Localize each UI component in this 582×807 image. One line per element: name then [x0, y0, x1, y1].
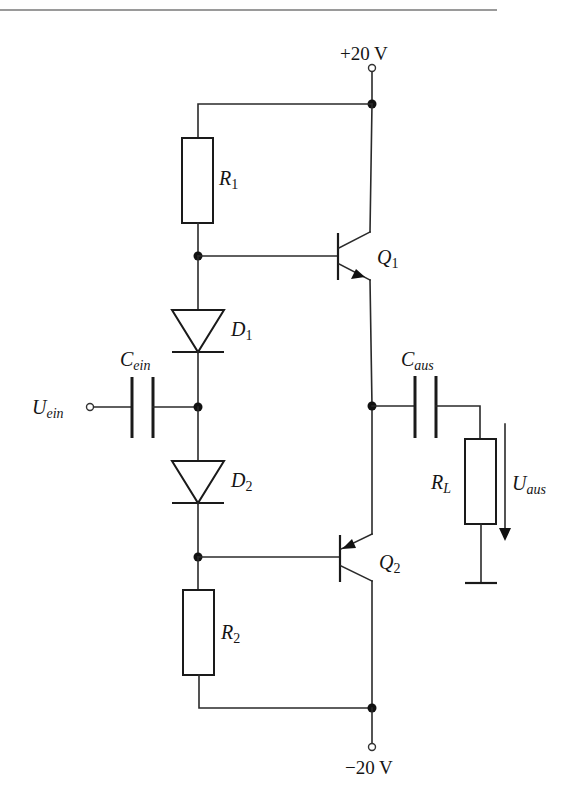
positive-supply-label: +20 V — [340, 43, 388, 64]
resistor-r1-body — [182, 138, 213, 223]
resistor-r2-label: R2 — [220, 621, 240, 646]
diode-d1-triangle — [172, 310, 224, 352]
negative-supply-terminal[interactable] — [369, 744, 376, 751]
diode-d2: D2 — [172, 461, 252, 503]
positive-supply-terminal[interactable] — [369, 65, 376, 72]
q1-collector — [339, 232, 370, 248]
transistor-q2: Q2 — [340, 534, 400, 582]
q2-collector — [341, 566, 372, 581]
resistor-r2-body — [183, 590, 214, 675]
input-terminal[interactable] — [87, 404, 94, 411]
wire-r2-to-vminus — [199, 675, 372, 708]
resistor-rl: RL — [430, 439, 496, 524]
diode-d2-label: D2 — [230, 469, 252, 494]
diode-d2-triangle — [172, 461, 224, 503]
capacitor-caus-label: Caus — [401, 348, 434, 373]
resistor-r2: R2 — [183, 590, 240, 675]
q2-emitter-arrow-icon — [342, 539, 356, 549]
capacitor-cein-label: Cein — [120, 348, 150, 373]
input-signal-label: Uein — [32, 396, 64, 421]
resistor-rl-body — [465, 439, 496, 524]
diode-d1-label: D1 — [230, 318, 252, 343]
wire-vplus-to-r1 — [198, 104, 372, 138]
circuit-schematic: +20 V R1 Q1 D1 Uein — [0, 0, 582, 807]
arrow-down-icon — [499, 528, 511, 541]
capacitor-caus: Caus — [401, 348, 436, 438]
input-signal: Uein — [32, 396, 94, 421]
negative-supply: −20 V — [345, 744, 393, 779]
output-signal-label: Uaus — [512, 472, 546, 497]
resistor-r1-label: R1 — [218, 167, 238, 192]
wire-q1-emitter-to-out — [370, 280, 372, 406]
positive-supply: +20 V — [340, 43, 388, 72]
transistor-q1-label: Q1 — [377, 246, 398, 271]
output-voltage-arrow: Uaus — [499, 424, 546, 541]
resistor-rl-label: RL — [430, 471, 451, 496]
capacitor-cein: Cein — [120, 348, 153, 438]
wire-caus-to-rl — [436, 406, 480, 439]
diode-d1: D1 — [172, 310, 252, 352]
transistor-q1: Q1 — [338, 104, 398, 280]
negative-supply-label: −20 V — [345, 757, 393, 778]
q1-collector-lead — [370, 104, 372, 232]
resistor-r1: R1 — [182, 138, 238, 223]
transistor-q2-label: Q2 — [379, 551, 400, 576]
